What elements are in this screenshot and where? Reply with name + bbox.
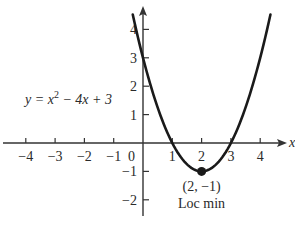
x-axis-label: x — [288, 135, 295, 150]
x-tick-label: 1 — [169, 149, 176, 164]
parabola-chart: −4−3−2−112344321−1−20 y = x2 − 4x + 3 (2… — [0, 0, 295, 243]
local-min-label: Loc min — [178, 196, 225, 211]
x-tick-label: 4 — [257, 149, 264, 164]
x-tick-label: −3 — [48, 149, 63, 164]
parabola-curve — [133, 15, 271, 172]
y-tick-label: 3 — [130, 51, 137, 66]
y-tick-label: −1 — [122, 164, 137, 179]
y-tick-label: −2 — [122, 193, 137, 208]
x-tick-label: −4 — [18, 149, 33, 164]
x-tick-label: 3 — [227, 149, 234, 164]
x-tick-label: 2 — [198, 149, 205, 164]
y-tick-label: 2 — [130, 79, 137, 94]
equation-label: y = x2 − 4x + 3 — [23, 89, 112, 107]
x-tick-label: −1 — [106, 149, 121, 164]
point-coordinate-label: (2, −1) — [182, 179, 221, 195]
origin-label: 0 — [128, 149, 135, 164]
x-tick-label: −2 — [77, 149, 92, 164]
local-minimum-point — [197, 167, 206, 176]
y-tick-label: 1 — [130, 108, 137, 123]
